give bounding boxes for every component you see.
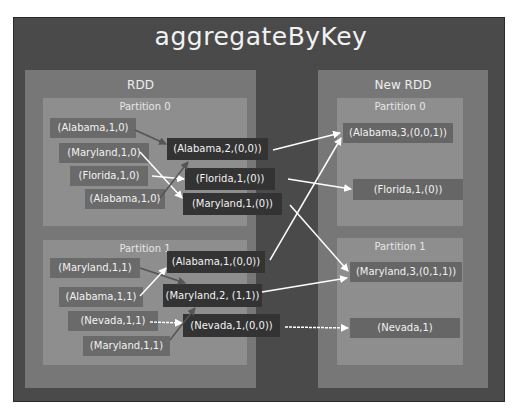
input-record: (Nevada,1,1) (68, 311, 158, 331)
input-record: (Maryland,1,1) (50, 258, 140, 278)
combined-record: (Alabama,1,(0,0)) (167, 251, 265, 273)
combined-record: (Florida,1,(0)) (185, 168, 275, 190)
new-partition-0: Partition 0 (337, 98, 463, 226)
output-record: (Maryland,3,(0,1,1)) (350, 262, 462, 282)
combined-record: (Nevada,1,(0,0)) (183, 314, 280, 337)
input-record: (Maryland,1,1) (83, 336, 170, 356)
diagram-title: aggregateByKey (0, 22, 522, 51)
partition-label: Partition 1 (337, 241, 463, 252)
new-rdd-label: New RDD (318, 78, 488, 92)
source-rdd-label: RDD (25, 78, 256, 92)
input-record: (Alabama,1,0) (50, 118, 136, 138)
input-record: (Alabama,1,1) (59, 287, 143, 307)
input-record: (Florida,1,0) (70, 166, 148, 186)
partition-label: Partition 0 (43, 101, 247, 112)
input-record: (Alabama,1,0) (85, 189, 165, 209)
output-record: (Nevada,1) (350, 318, 460, 338)
partition-label: Partition 0 (337, 101, 463, 112)
combined-record: (Maryland,1,(0)) (183, 193, 282, 215)
input-record: (Maryland,1,0) (59, 143, 149, 163)
new-partition-1: Partition 1 (337, 238, 463, 365)
combined-record: (Maryland,2, (1,1)) (163, 284, 262, 307)
output-record: (Florida,1,(0)) (353, 179, 463, 200)
output-record: (Alabama,3,(0,0,1)) (343, 123, 453, 143)
combined-record: (Alabama,2,(0,0)) (167, 138, 268, 160)
